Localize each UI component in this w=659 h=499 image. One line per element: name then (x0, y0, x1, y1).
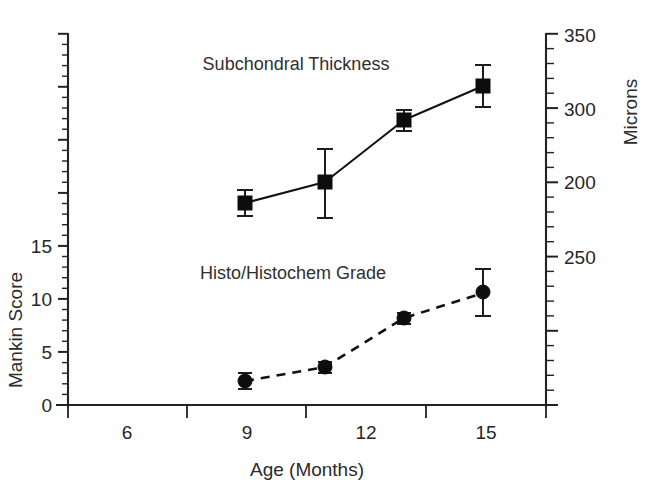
y2tick-label-300: 300 (564, 99, 596, 120)
y-axis-title: Mankin Score (5, 272, 26, 388)
ytick-label-10: 10 (31, 289, 52, 310)
y2tick-label-350: 350 (564, 25, 596, 46)
x-axis-title: Age (Months) (250, 459, 364, 480)
ytick-label-5: 5 (41, 342, 52, 363)
y2tick-label-200: 200 (564, 172, 596, 193)
chart-figure: 0 5 10 15 Mankin Score (0, 0, 659, 499)
xtick-label-6: 6 (122, 422, 133, 443)
series-label-histo: Histo/Histochem Grade (200, 263, 386, 283)
y2-axis-title: Microns (620, 79, 641, 146)
ytick-label-0: 0 (41, 395, 52, 416)
series-label-subchondral: Subchondral Thickness (203, 54, 390, 74)
xtick-label-15: 15 (475, 422, 496, 443)
xtick-label-12: 12 (355, 422, 376, 443)
chart-svg: 0 5 10 15 Mankin Score (0, 0, 659, 499)
xtick-label-9: 9 (242, 422, 253, 443)
chart-background (0, 0, 659, 499)
y2tick-label-250: 250 (564, 247, 596, 268)
ytick-label-15: 15 (31, 236, 52, 257)
